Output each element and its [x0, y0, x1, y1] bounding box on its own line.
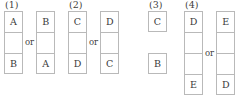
tile-column: AB [4, 11, 23, 74]
or-separator: or [87, 38, 100, 47]
tile-column: DC [100, 11, 119, 74]
tile-column: CB [148, 11, 167, 74]
group-label: (4) [184, 0, 235, 11]
tile-cell-empty [100, 32, 119, 53]
tile-cell-C: C [68, 11, 87, 32]
tile-cell-empty [4, 32, 23, 53]
group-1: (1)ABorBA [4, 0, 55, 74]
tile-cell-empty [216, 53, 235, 74]
tile-column: CD [68, 11, 87, 74]
tile-cell-D: D [68, 53, 87, 74]
tile-column: BA [36, 11, 55, 74]
tile-cell-empty [36, 32, 55, 53]
tile-cell-E: E [216, 11, 235, 32]
or-separator: or [23, 38, 36, 47]
group-4: (4)DEorED [184, 0, 235, 95]
tile-column: DE [184, 11, 203, 95]
tile-cell-D: D [216, 74, 235, 95]
group-label: (3) [148, 0, 167, 11]
tile-cell-C: C [100, 53, 119, 74]
tile-cell-empty [184, 53, 203, 74]
tile-cell-D: D [184, 11, 203, 32]
tile-cell-B: B [148, 53, 167, 74]
tile-cell-A: A [36, 53, 55, 74]
or-separator: or [203, 49, 216, 58]
group-body: ABorBA [4, 11, 55, 74]
group-3: (3)CB [148, 0, 167, 74]
tile-cell-D: D [100, 11, 119, 32]
group-body: CDorDC [68, 11, 119, 74]
tile-gap [148, 32, 167, 53]
tile-cell-C: C [148, 11, 167, 32]
tile-cell-B: B [36, 11, 55, 32]
group-body: CB [148, 11, 167, 74]
tile-cell-E: E [184, 74, 203, 95]
tile-cell-B: B [4, 53, 23, 74]
tile-cell-empty [216, 32, 235, 53]
tile-cell-empty [184, 32, 203, 53]
tile-cell-A: A [4, 11, 23, 32]
tile-column: ED [216, 11, 235, 95]
figure-root: (1)ABorBA(2)CDorDC(3)CB(4)DEorED [0, 0, 251, 98]
group-2: (2)CDorDC [68, 0, 119, 74]
group-label: (1) [4, 0, 55, 11]
group-label: (2) [68, 0, 119, 11]
group-body: DEorED [184, 11, 235, 95]
tile-cell-empty [68, 32, 87, 53]
